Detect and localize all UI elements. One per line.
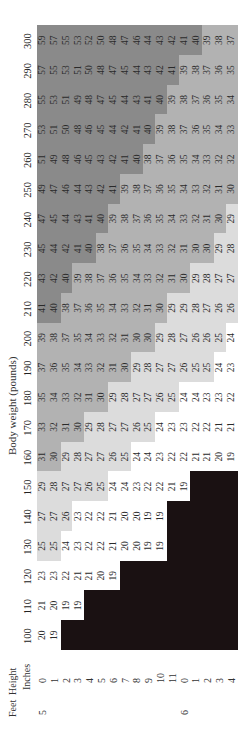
bmi-cell: 30 <box>143 323 155 353</box>
bmi-cell <box>143 620 155 650</box>
bmi-cell: 19 <box>72 591 84 621</box>
weight-label: 290 <box>23 63 34 79</box>
bmi-cell: 35 <box>226 55 238 85</box>
bmi-cell <box>202 620 214 650</box>
bmi-cell <box>190 472 202 502</box>
inches-label: 3 <box>215 678 225 683</box>
bmi-cell: 27 <box>61 472 73 502</box>
bmi-cell: 28 <box>190 293 202 323</box>
bmi-cell: 55 <box>37 85 49 115</box>
bmi-cell: 29 <box>108 382 120 412</box>
bmi-cell: 19 <box>179 472 191 502</box>
bmi-cell: 38 <box>96 234 108 264</box>
bmi-cell: 35 <box>96 293 108 323</box>
bmi-cell: 21 <box>202 442 214 472</box>
bmi-cell: 38 <box>120 204 132 234</box>
bmi-cell: 22 <box>61 561 73 591</box>
bmi-cell <box>167 501 179 531</box>
bmi-cell: 24 <box>214 353 226 383</box>
bmi-cell: 35 <box>61 353 73 383</box>
weight-label: 160 <box>23 450 34 466</box>
bmi-cell: 30 <box>214 204 226 234</box>
bmi-cell: 48 <box>84 85 96 115</box>
weight-label: 230 <box>23 242 34 258</box>
bmi-cell: 48 <box>96 55 108 85</box>
bmi-cell: 28 <box>120 382 132 412</box>
bmi-cell: 32 <box>72 382 84 412</box>
bmi-cell: 21 <box>226 412 238 442</box>
inches-label: 6 <box>109 678 119 683</box>
inches-label: 8 <box>132 678 142 683</box>
bmi-cell <box>179 620 191 650</box>
bmi-cell: 26 <box>108 442 120 472</box>
bmi-cell: 38 <box>167 115 179 145</box>
bmi-cell: 32 <box>96 353 108 383</box>
bmi-cell: 26 <box>131 412 143 442</box>
bmi-cell: 24 <box>179 382 191 412</box>
bmi-cell: 33 <box>202 144 214 174</box>
bmi-cell: 22 <box>190 412 202 442</box>
bmi-cell <box>214 472 226 502</box>
bmi-cell: 37 <box>226 25 238 55</box>
bmi-cell: 28 <box>226 234 238 264</box>
bmi-cell: 34 <box>108 293 120 323</box>
bmi-cell: 36 <box>143 204 155 234</box>
inches-label: 4 <box>227 678 237 683</box>
weight-label: 120 <box>23 569 34 585</box>
bmi-cell: 32 <box>167 234 179 264</box>
bmi-cell: 53 <box>61 55 73 85</box>
weight-label: 250 <box>23 182 34 198</box>
bmi-cell: 26 <box>202 323 214 353</box>
bmi-cell: 32 <box>108 323 120 353</box>
bmi-cell: 43 <box>155 25 167 55</box>
bmi-table: Body weight (pounds) Height Inches Feet … <box>0 0 246 745</box>
bmi-cell: 22 <box>96 531 108 561</box>
bmi-cell: 24 <box>190 382 202 412</box>
bmi-cell: 37 <box>108 234 120 264</box>
bmi-cell <box>108 620 120 650</box>
bmi-cell <box>120 561 132 591</box>
bmi-cell: 29 <box>179 293 191 323</box>
bmi-cell: 36 <box>155 174 167 204</box>
bmi-cell: 19 <box>155 501 167 531</box>
bmi-cell: 23 <box>131 472 143 502</box>
bmi-cell: 36 <box>167 144 179 174</box>
weight-label: 170 <box>23 420 34 436</box>
bmi-cell: 36 <box>84 293 96 323</box>
bmi-cell <box>226 561 238 591</box>
bmi-cell <box>96 591 108 621</box>
bmi-cell: 31 <box>108 353 120 383</box>
bmi-cell: 22 <box>84 531 96 561</box>
bmi-cell: 29 <box>61 442 73 472</box>
inches-label: 0 <box>38 678 48 683</box>
bmi-cell: 33 <box>190 174 202 204</box>
bmi-cell: 37 <box>61 323 73 353</box>
bmi-cell: 38 <box>131 174 143 204</box>
bmi-cell <box>143 561 155 591</box>
weight-label: 140 <box>23 509 34 525</box>
bmi-cell <box>190 531 202 561</box>
bmi-cell <box>214 501 226 531</box>
bmi-cell: 25 <box>214 323 226 353</box>
bmi-cell <box>167 591 179 621</box>
inches-label: 10 <box>156 673 166 683</box>
bmi-cell: 20 <box>120 531 132 561</box>
bmi-cell: 24 <box>131 442 143 472</box>
bmi-cell: 41 <box>131 115 143 145</box>
bmi-cell: 34 <box>131 263 143 293</box>
bmi-cell: 42 <box>108 144 120 174</box>
bmi-cell <box>84 591 96 621</box>
bmi-cell: 39 <box>202 25 214 55</box>
bmi-cell: 44 <box>61 204 73 234</box>
feet-label: 5 <box>38 710 48 715</box>
inches-label: 2 <box>203 678 213 683</box>
bmi-cell: 59 <box>37 25 49 55</box>
bmi-cell: 49 <box>37 174 49 204</box>
bmi-cell: 32 <box>49 412 61 442</box>
bmi-cell: 43 <box>84 174 96 204</box>
bmi-cell: 38 <box>179 85 191 115</box>
bmi-cell <box>226 591 238 621</box>
bmi-cell <box>214 531 226 561</box>
bmi-cell: 25 <box>96 472 108 502</box>
bmi-cell: 48 <box>61 144 73 174</box>
